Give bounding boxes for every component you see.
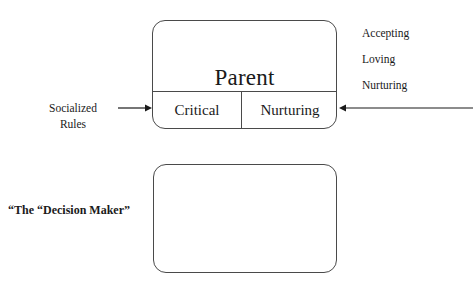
trait-label-accepting: Accepting xyxy=(362,28,409,40)
adult-ego-state-box: Adult xyxy=(153,164,337,273)
trait-label-loving: Loving xyxy=(362,54,395,66)
parent-box-title: Parent xyxy=(153,66,336,89)
arrow-into-nurturing-icon xyxy=(337,100,473,116)
parent-ego-state-box: Parent Critical Nurturing xyxy=(152,20,337,129)
parent-box-horizontal-divider xyxy=(153,91,336,92)
socialized-rules-label: Socialized Rules xyxy=(33,100,113,132)
diagram-canvas: Parent Critical Nurturing Adult Acceptin… xyxy=(0,0,473,294)
trait-label-nurturing: Nurturing xyxy=(362,80,407,92)
adult-decision-maker-caption: “The “Decision Maker” xyxy=(8,204,130,216)
parent-cell-critical-label: Critical xyxy=(153,103,241,118)
arrow-into-critical-icon xyxy=(118,100,154,116)
socialized-rules-line-1: Socialized xyxy=(33,100,113,116)
socialized-rules-line-2: Rules xyxy=(33,116,113,132)
parent-cell-nurturing-label: Nurturing xyxy=(242,103,338,118)
